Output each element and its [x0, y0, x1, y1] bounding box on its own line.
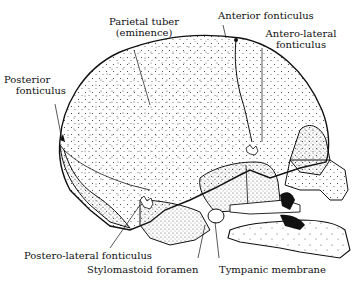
label-posterior-line2: fonticulus: [4, 85, 66, 96]
label-antero-lateral-line2: fonticulus: [256, 39, 346, 50]
label-postero-lateral-fonticulus: Postero-lateral fonticulus: [24, 250, 152, 261]
skull-diagram: Parietal tuber (eminence) Anterior fonti…: [0, 0, 356, 285]
label-parietal-tuber-line1: Parietal tuber: [94, 16, 194, 27]
label-posterior-fonticulus: Posterior fonticulus: [4, 74, 66, 96]
label-stylomastoid-foramen: Stylomastoid foramen: [87, 264, 198, 275]
label-anterior-fonticulus: Anterior fonticulus: [218, 10, 314, 21]
label-parietal-tuber: Parietal tuber (eminence): [94, 16, 194, 38]
label-antero-lateral-fonticulus: Antero-lateral fonticulus: [256, 28, 346, 50]
label-parietal-tuber-line2: (eminence): [94, 27, 194, 38]
label-tympanic-membrane: Tympanic membrane: [219, 264, 326, 275]
label-antero-lateral-line1: Antero-lateral: [256, 28, 346, 39]
label-posterior-line1: Posterior: [4, 74, 66, 85]
